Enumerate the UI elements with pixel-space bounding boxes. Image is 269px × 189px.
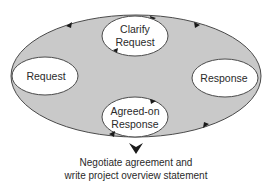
outcome-caption-line1: Negotiate agreement and bbox=[80, 157, 193, 168]
node-request: Request bbox=[12, 57, 78, 95]
down-arrowhead-icon bbox=[129, 143, 143, 154]
outcome-caption-line2: write project overview statement bbox=[64, 170, 208, 181]
node-agreed-on-response: Agreed-on Response bbox=[102, 97, 168, 137]
node-agreed-label-line2: Response bbox=[111, 118, 158, 130]
node-clarify-label-line2: Request bbox=[115, 36, 154, 48]
conditions-of-satisfaction-diagram: Request Response Clarify Request Agreed-… bbox=[0, 0, 269, 189]
node-agreed-label-line1: Agreed-on bbox=[110, 105, 159, 117]
node-clarify-label-line1: Clarify bbox=[120, 23, 151, 35]
node-response-label: Response bbox=[200, 72, 247, 84]
node-request-label: Request bbox=[26, 70, 65, 82]
node-clarify-request: Clarify Request bbox=[102, 16, 168, 56]
node-response: Response bbox=[192, 59, 258, 97]
